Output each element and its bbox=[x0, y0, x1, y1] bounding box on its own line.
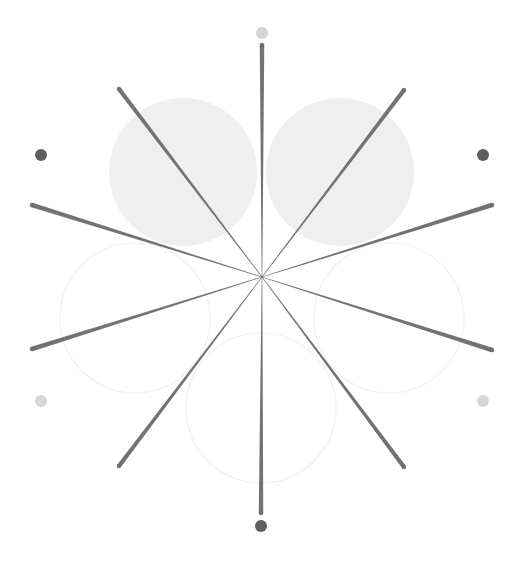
spoke-tip-right-lower bbox=[490, 348, 495, 353]
dot-upper-right-dark bbox=[477, 149, 489, 161]
spoke-tip-upper-right bbox=[402, 88, 407, 93]
spoke-tip-lower-right bbox=[402, 465, 407, 470]
background bbox=[0, 0, 530, 567]
spoke-tip-left-lower bbox=[30, 347, 35, 352]
dot-upper-left-dark bbox=[35, 149, 47, 161]
dot-lower-right-light bbox=[477, 395, 489, 407]
spoke-tip-right-upper bbox=[490, 203, 495, 208]
spoke-tip-lower-left bbox=[117, 464, 122, 469]
spoke-tip-left-upper bbox=[30, 203, 35, 208]
spoke-tip-top bbox=[260, 43, 265, 48]
radial-diagram bbox=[0, 0, 530, 567]
dot-top-light bbox=[256, 27, 268, 39]
spoke-tip-upper-left bbox=[117, 87, 122, 92]
spoke-tip-bottom bbox=[259, 511, 264, 516]
dot-lower-left-light bbox=[35, 395, 47, 407]
dot-bottom-dark bbox=[255, 520, 267, 532]
